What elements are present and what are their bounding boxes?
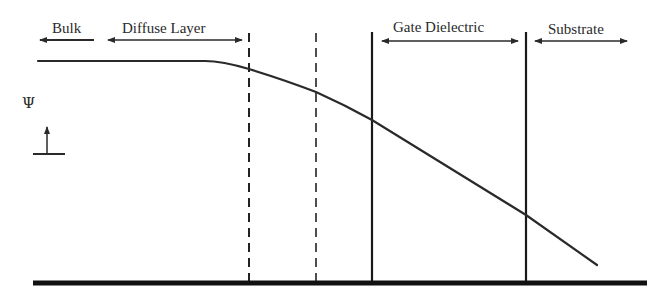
psi-symbol: Ψ: [22, 94, 35, 112]
region-label-gate-dielectric: Gate Dielectric: [393, 19, 485, 35]
potential-curve: [38, 61, 597, 265]
region-label-bulk: Bulk: [52, 20, 82, 36]
psi-direction-arrow-icon: [33, 127, 65, 154]
region-label-diffuse-layer: Diffuse Layer: [122, 20, 205, 36]
potential-profile-diagram: Bulk Diffuse Layer Gate Dielectric Subst…: [0, 0, 671, 303]
region-label-substrate: Substrate: [548, 21, 604, 37]
